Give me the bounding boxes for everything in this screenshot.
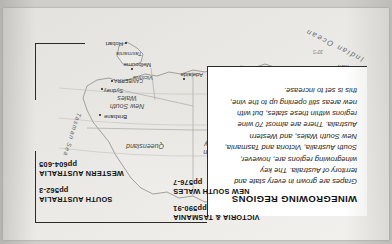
- city-dot-brisbane: [99, 114, 101, 116]
- xref-name: SOUTH AUSTRALIA: [39, 195, 157, 204]
- xref-name: VICTORIA & TASMANIA: [173, 213, 289, 222]
- panel-body-text: Grapes are grown in every state and terr…: [222, 85, 357, 188]
- xref-victoria-tasmania[interactable]: VICTORIA & TASMANIA pp590-91: [173, 204, 289, 222]
- xref-pages: pp590-91: [173, 204, 289, 213]
- map-label-adelaide: Adelaide: [180, 72, 203, 78]
- xref-name: WESTERN AUSTRALIA: [39, 169, 157, 178]
- map-label-new-south-wales: New South Wales: [101, 94, 153, 110]
- map-label-tasmania: Tasmania: [107, 50, 151, 58]
- xref-name: NEW SOUTH WALES: [173, 187, 289, 196]
- xref-south-australia[interactable]: SOUTH AUSTRALIA pp562-3: [39, 186, 157, 204]
- leader-line-right-lower: [35, 44, 36, 100]
- map-label-lat-30s: 30°S: [313, 49, 323, 54]
- xref-western-australia[interactable]: WESTERN AUSTRALIA pp604-605: [39, 160, 157, 178]
- map-label-queensland: Queensland: [115, 142, 175, 150]
- leader-line-victoria-tasmania: [35, 222, 207, 223]
- map-label-canberra: CANBERRA: [114, 78, 143, 84]
- map-label-sydney: Sydney: [104, 88, 123, 94]
- map-label-melbourne: Melbourne: [124, 62, 151, 68]
- scanned-page: Western Australia Northern Territory Sou…: [0, 0, 392, 244]
- map-label-hobart: Hobart: [106, 41, 123, 47]
- city-dot-sydney: [101, 88, 103, 90]
- xref-pages: pp576-7: [173, 178, 289, 187]
- leader-line-indian-ocean-box: [35, 43, 85, 44]
- rotated-page-content: Western Australia Northern Territory Sou…: [0, 0, 392, 244]
- leader-line-right-edge: [35, 151, 36, 223]
- city-dot-hobart: [125, 42, 127, 44]
- xref-pages: pp604-605: [39, 160, 157, 169]
- xref-pages: pp562-3: [39, 186, 157, 195]
- xref-new-south-wales[interactable]: NEW SOUTH WALES pp576-7: [173, 178, 289, 196]
- paper-surface: Western Australia Northern Territory Sou…: [3, 8, 389, 240]
- map-label-brisbane: Brisbane: [104, 114, 127, 120]
